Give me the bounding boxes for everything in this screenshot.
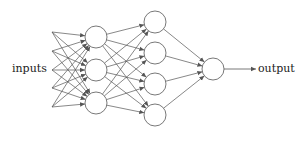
connection-edge bbox=[107, 56, 145, 67]
connection-edge bbox=[107, 40, 145, 50]
neuron-hidden-1 bbox=[85, 59, 107, 81]
neuron-hidden-1 bbox=[85, 92, 107, 114]
connection-edge bbox=[52, 88, 86, 99]
inputs-label: inputs bbox=[12, 63, 47, 75]
neuron-output bbox=[202, 58, 224, 80]
connections bbox=[52, 25, 204, 113]
connection-edge bbox=[52, 104, 85, 107]
connection-edge bbox=[107, 105, 144, 113]
connection-edge bbox=[107, 25, 145, 35]
neuron-hidden-2 bbox=[144, 104, 166, 126]
connection-edge bbox=[52, 45, 89, 88]
output-label: output bbox=[258, 63, 295, 75]
neuron-hidden-2 bbox=[144, 42, 166, 64]
connection-edge bbox=[52, 74, 86, 88]
connection-edge bbox=[164, 76, 205, 108]
neurons bbox=[85, 11, 224, 126]
neuron-hidden-2 bbox=[144, 11, 166, 33]
connection-edge bbox=[103, 46, 149, 106]
neuron-hidden-1 bbox=[85, 26, 107, 48]
connection-edge bbox=[166, 72, 203, 81]
connection-edge bbox=[52, 51, 86, 66]
connection-edge bbox=[52, 40, 86, 51]
connection-edge bbox=[52, 32, 85, 36]
neuron-hidden-2 bbox=[144, 73, 166, 95]
connection-edge bbox=[105, 77, 147, 109]
connection-edge bbox=[105, 29, 147, 63]
connection-edge bbox=[166, 56, 203, 66]
